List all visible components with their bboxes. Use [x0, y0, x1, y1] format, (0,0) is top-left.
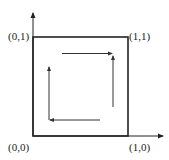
label-top-left: (0,1)	[8, 30, 29, 43]
diagram-svg: (0,1) (1,1) (0,0) (1,0)	[0, 0, 169, 160]
inner-arrows	[49, 54, 113, 121]
diagram-canvas: (0,1) (1,1) (0,0) (1,0)	[0, 0, 169, 160]
label-origin: (0,0)	[8, 141, 29, 154]
label-bottom-right: (1,0)	[129, 141, 150, 154]
label-top-right: (1,1)	[129, 30, 150, 43]
unit-square	[33, 37, 128, 136]
